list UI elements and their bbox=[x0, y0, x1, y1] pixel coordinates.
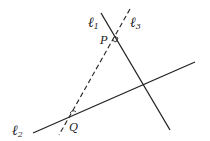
label-l3: ℓ3 bbox=[130, 14, 141, 31]
line-l2 bbox=[33, 62, 195, 133]
geometry-diagram: ℓ1 ℓ3 ℓ2 P Q bbox=[0, 0, 210, 141]
label-l1: ℓ1 bbox=[88, 14, 99, 31]
label-point-p: P bbox=[99, 34, 108, 47]
label-point-q: Q bbox=[69, 121, 78, 134]
label-l2: ℓ2 bbox=[12, 122, 23, 139]
angle-arc-mark-q bbox=[70, 111, 76, 113]
